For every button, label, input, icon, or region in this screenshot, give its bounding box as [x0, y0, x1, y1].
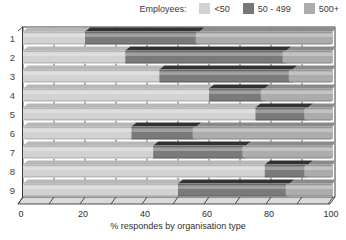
legend-title: Employees:	[139, 4, 186, 14]
bar-row-5	[23, 104, 335, 121]
bar-row-4	[23, 85, 335, 102]
chart: 123456789020406080100% respondes by orga…	[0, 0, 346, 240]
bar-top-4-500+	[265, 85, 335, 89]
bar-top-3-<50	[23, 66, 164, 70]
bar-top-8-50 - 499	[265, 161, 313, 165]
x-tick-label-20: 20	[78, 209, 88, 219]
bar-seg-6-50-499	[132, 127, 197, 140]
bar-seg-4-50-499	[209, 89, 265, 102]
x-axis-title: % respondes by organisation type	[110, 221, 246, 231]
bar-top-6-<50	[23, 123, 137, 127]
x-tick-label-40: 40	[140, 209, 150, 219]
bar-top-8-<50	[23, 161, 270, 165]
bar-top-7-500+	[246, 142, 335, 146]
bar-top-2-50 - 499	[125, 47, 291, 51]
legend: Employees: <50 50 - 499 500+	[139, 3, 339, 14]
x-tick-label-60: 60	[202, 209, 212, 219]
row-label-9: 9	[10, 185, 15, 196]
row-label-5: 5	[10, 109, 15, 120]
bar-seg-5-50-499	[256, 108, 309, 121]
bar-seg-2-500plus	[283, 51, 334, 64]
bar-top-5-<50	[23, 104, 261, 108]
row-label-4: 4	[10, 90, 15, 101]
bar-top-9-50 - 499	[178, 180, 295, 184]
bar-top-6-500+	[197, 123, 335, 127]
legend-label-50-499: 50 - 499	[258, 4, 291, 14]
row-label-7: 7	[10, 147, 15, 158]
row-label-8: 8	[10, 166, 15, 177]
legend-swatch-50-499-icon	[243, 3, 254, 14]
row-label-1: 1	[10, 33, 15, 44]
row-label-2: 2	[10, 52, 15, 63]
legend-label-lt50: <50	[214, 4, 229, 14]
bar-seg-3-50-499	[159, 70, 292, 83]
bar-top-6-50 - 499	[132, 123, 202, 127]
bar-seg-8-500plus	[304, 165, 333, 178]
plot-area: 123456789020406080100% respondes by orga…	[0, 0, 346, 240]
bar-top-4-<50	[23, 85, 214, 89]
bar-top-5-50 - 499	[256, 104, 314, 108]
bar-row-1	[23, 28, 335, 45]
bar-top-4-50 - 499	[209, 85, 270, 89]
bar-top-1-<50	[23, 28, 90, 32]
row-label-3: 3	[10, 71, 15, 82]
bar-seg-3-500plus	[289, 70, 333, 83]
legend-item-lt50: <50	[199, 3, 229, 14]
bar-seg-1-500plus	[196, 32, 333, 45]
bar-row-8	[23, 161, 335, 178]
bar-top-9-500+	[290, 180, 335, 184]
bar-top-7-50 - 499	[153, 142, 251, 146]
bar-row-2	[23, 47, 335, 64]
bar-row-7	[23, 142, 335, 159]
x-tick-label-0: 0	[18, 209, 23, 219]
bar-seg-5-500plus	[304, 108, 333, 121]
legend-swatch-lt50-icon	[199, 3, 210, 14]
x-tick-label-80: 80	[264, 209, 274, 219]
bar-top-3-50 - 499	[159, 66, 297, 70]
bar-seg-8-50-499	[265, 165, 308, 178]
bar-seg-7-500plus	[242, 146, 333, 159]
bar-seg-2-50-499	[125, 51, 286, 64]
bar-top-2-500+	[287, 47, 336, 51]
bar-top-9-<50	[23, 180, 183, 184]
bar-top-3-500+	[293, 66, 335, 70]
bar-row-6	[23, 123, 335, 140]
legend-item-500plus: 500+	[304, 3, 339, 14]
legend-item-50-499: 50 - 499	[243, 3, 291, 14]
bar-top-1-50 - 499	[85, 28, 205, 32]
stacked-bar-plot: 123456789020406080100% respondes by orga…	[0, 0, 346, 240]
x-tick-label-100: 100	[323, 209, 338, 219]
floor	[18, 197, 335, 204]
legend-label-500plus: 500+	[319, 4, 339, 14]
bar-seg-7-50-499	[153, 146, 246, 159]
bar-seg-4-500plus	[261, 89, 333, 102]
bar-top-1-500+	[200, 28, 335, 32]
bar-seg-9-500plus	[286, 184, 333, 197]
bar-row-9	[23, 180, 335, 197]
row-label-6: 6	[10, 128, 15, 139]
bar-seg-1-50-499	[85, 32, 200, 45]
legend-swatch-500plus-icon	[304, 3, 315, 14]
bar-seg-9-50-499	[178, 184, 290, 197]
bar-row-3	[23, 66, 335, 83]
bar-seg-6-500plus	[193, 127, 333, 140]
bar-top-2-<50	[23, 47, 130, 51]
bar-top-7-<50	[23, 142, 158, 146]
